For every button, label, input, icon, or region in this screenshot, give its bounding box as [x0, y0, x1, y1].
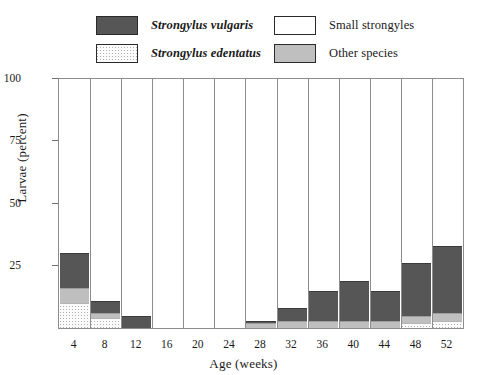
bar-segment-small-strongyles	[60, 79, 89, 253]
plot-area	[58, 78, 464, 329]
bar-week-36	[309, 79, 338, 328]
x-axis-tick-label: 36	[307, 338, 337, 350]
bar-segment-edentatus	[433, 321, 462, 328]
bar-segment-small-strongyles	[371, 79, 400, 291]
legend-swatch-edentatus	[96, 44, 138, 63]
bar-segment-other-species	[402, 316, 431, 323]
y-axis-title: Larvae (percent)	[14, 58, 30, 258]
bar-week-40	[340, 79, 369, 328]
chart-page: Strongylus vulgaris Small strongyles Str…	[0, 0, 487, 375]
bar-segment-small-strongyles	[278, 79, 307, 308]
bar-segment-small-strongyles	[309, 79, 338, 291]
legend-swatch-other-species	[274, 44, 316, 63]
legend-item-edentatus: Strongylus edentatus	[96, 42, 261, 64]
bar-segment-other-species	[309, 321, 338, 328]
legend-label-small-strongyles: Small strongyles	[329, 18, 414, 33]
bar-segment-vulgaris	[340, 281, 369, 321]
legend-item-other-species: Other species	[274, 42, 434, 64]
x-axis-tick-label: 20	[183, 338, 213, 350]
legend-item-vulgaris: Strongylus vulgaris	[96, 14, 261, 36]
x-axis-tick-label: 40	[338, 338, 368, 350]
x-axis-tick-label: 28	[245, 338, 275, 350]
bar-segment-small-strongyles	[433, 79, 462, 246]
legend-label-edentatus: Strongylus edentatus	[151, 46, 261, 61]
x-axis-tick-label: 44	[369, 338, 399, 350]
bar-week-32	[278, 79, 307, 328]
legend-label-other-species: Other species	[329, 46, 398, 61]
x-axis-tick-label: 32	[276, 338, 306, 350]
x-axis-tick-label: 12	[121, 338, 151, 350]
bar-week-20	[184, 79, 213, 328]
bar-segment-other-species	[371, 321, 400, 328]
bar-segment-small-strongyles	[246, 79, 275, 321]
chart-legend: Strongylus vulgaris Small strongyles Str…	[96, 14, 426, 66]
bar-segment-vulgaris	[91, 301, 120, 313]
bar-segment-small-strongyles	[402, 79, 431, 263]
x-axis-tick-label: 52	[431, 338, 461, 350]
bar-week-28	[246, 79, 275, 328]
bar-segment-vulgaris	[371, 291, 400, 321]
legend-swatch-vulgaris	[96, 16, 138, 35]
bar-segment-vulgaris	[433, 246, 462, 313]
bar-week-12	[122, 79, 151, 328]
bar-segment-other-species	[91, 313, 120, 318]
bar-segment-vulgaris	[246, 321, 275, 323]
x-axis-tick-label: 16	[152, 338, 182, 350]
x-axis-tick-label: 24	[214, 338, 244, 350]
y-axis-tick-label: 25	[0, 259, 21, 271]
bar-week-44	[371, 79, 400, 328]
bar-segment-small-strongyles	[215, 79, 244, 328]
bar-segment-vulgaris	[122, 316, 151, 328]
bar-segment-small-strongyles	[340, 79, 369, 281]
bar-segment-other-species	[278, 321, 307, 328]
legend-label-vulgaris: Strongylus vulgaris	[151, 18, 253, 33]
bar-week-48	[402, 79, 431, 328]
bar-segment-small-strongyles	[184, 79, 213, 328]
bar-segment-vulgaris	[309, 291, 338, 321]
bar-segment-small-strongyles	[91, 79, 120, 301]
bar-segment-edentatus	[60, 303, 89, 328]
bar-week-52	[433, 79, 462, 328]
bar-segment-other-species	[60, 288, 89, 303]
x-axis-title: Age (weeks)	[0, 356, 487, 372]
bar-week-8	[91, 79, 120, 328]
bar-week-24	[215, 79, 244, 328]
bar-segment-vulgaris	[60, 253, 89, 288]
legend-swatch-small-strongyles	[274, 16, 316, 35]
bar-segment-other-species	[340, 321, 369, 328]
x-axis-tick-label: 4	[59, 338, 89, 350]
bar-segment-small-strongyles	[122, 79, 151, 316]
bar-week-4	[60, 79, 89, 328]
bar-segment-edentatus	[402, 323, 431, 328]
bar-segment-edentatus	[91, 318, 120, 328]
bar-segment-vulgaris	[278, 308, 307, 320]
bar-segment-other-species	[246, 323, 275, 328]
bar-segment-vulgaris	[402, 263, 431, 315]
x-axis-tick-label: 8	[90, 338, 120, 350]
x-axis-tick-label: 48	[400, 338, 430, 350]
bar-segment-other-species	[433, 313, 462, 320]
legend-item-small-strongyles: Small strongyles	[274, 14, 434, 36]
column-divider	[152, 79, 153, 328]
